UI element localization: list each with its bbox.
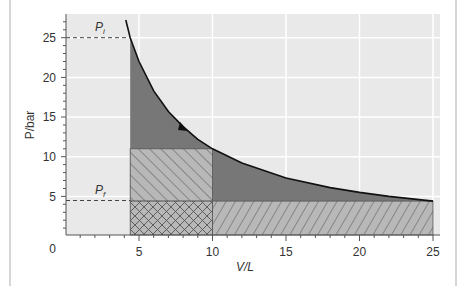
y-tick-label: 25	[43, 31, 57, 45]
x-axis-title: V/L	[236, 260, 254, 274]
x-tick-label: 15	[279, 245, 293, 259]
y-axis-title: P/bar	[23, 111, 37, 140]
one-step-work-region	[213, 201, 434, 235]
y-ticks	[61, 22, 66, 228]
x-ticks	[80, 235, 433, 241]
y-tick-label: 15	[43, 110, 57, 124]
y-tick-label: 5	[49, 190, 56, 204]
y-tick-label: 20	[43, 71, 57, 85]
x-tick-label: 25	[426, 245, 440, 259]
y-tick-label: 0	[49, 242, 56, 256]
x-tick-label: 5	[136, 245, 143, 259]
pv-chart: Pi Pf 25 20 15 10 5 0 5 10 15 20	[0, 0, 465, 286]
y-tick-label: 10	[43, 150, 57, 164]
x-tick-label: 10	[206, 245, 220, 259]
overlap-work-region	[130, 201, 212, 235]
x-tick-label: 20	[353, 245, 367, 259]
two-step-work-region	[130, 149, 212, 201]
